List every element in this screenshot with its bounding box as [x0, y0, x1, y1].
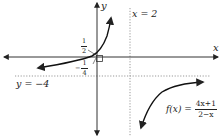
function-denominator: 2−x — [198, 110, 213, 119]
x-intercept-label: − 1 4 — [75, 60, 88, 76]
function-formula: f(x) = 4x+1 2−x — [166, 100, 217, 118]
y-intercept-denominator: 2 — [82, 47, 86, 55]
vertical-asymptote-label: x = 2 — [132, 9, 157, 19]
y-axis-label: y — [101, 1, 107, 11]
x-intercept-denominator: 4 — [82, 69, 86, 77]
horizontal-asymptote-label: y = −4 — [16, 79, 49, 89]
y-intercept-label: 1 2 — [81, 38, 87, 54]
function-numerator: 4x+1 — [195, 100, 217, 110]
x-axis-label: x — [213, 43, 219, 53]
x-intercept-numerator: 1 — [81, 60, 87, 69]
y-intercept-numerator: 1 — [81, 38, 87, 47]
y-intercept-leader — [88, 50, 96, 55]
function-lhs: f(x) = — [166, 104, 192, 114]
x-intercept-leader — [93, 58, 96, 64]
x-intercept-sign: − — [75, 64, 80, 72]
